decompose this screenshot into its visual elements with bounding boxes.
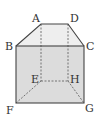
label-c: C bbox=[86, 40, 94, 53]
geometry-diagram: A D B C E H F G bbox=[0, 0, 100, 120]
label-d: D bbox=[70, 12, 79, 25]
label-b: B bbox=[5, 40, 13, 53]
label-a: A bbox=[31, 12, 41, 25]
label-f: F bbox=[6, 104, 14, 117]
label-e: E bbox=[31, 73, 39, 86]
label-h: H bbox=[70, 73, 80, 86]
label-g: G bbox=[85, 102, 94, 115]
top-face bbox=[16, 24, 84, 46]
